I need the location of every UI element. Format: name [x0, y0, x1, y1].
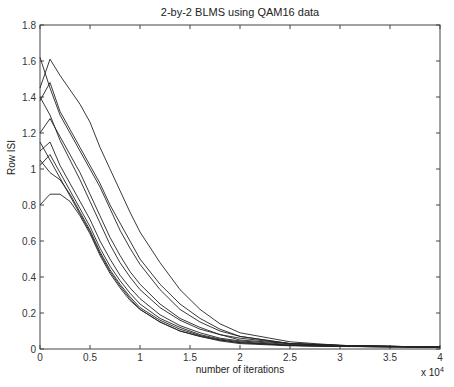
x-tick-label: 4 [437, 352, 443, 363]
y-tick-label: 0.6 [22, 236, 36, 247]
y-tick-label: 1.6 [22, 56, 36, 67]
y-tick-label: 0.8 [22, 200, 36, 211]
x-tick-label: 0 [37, 352, 43, 363]
x-tick-label: 1 [137, 352, 143, 363]
series-line [40, 97, 440, 347]
x-tick-label: 3 [337, 352, 343, 363]
x-tick-label: 1.5 [183, 352, 197, 363]
x-tick-label: 2.5 [283, 352, 297, 363]
y-tick-label: 0 [30, 344, 36, 355]
x-tick-label: 3.5 [383, 352, 397, 363]
x-tick-label: 0.5 [83, 352, 97, 363]
series-line [40, 57, 440, 347]
x-tick-label: 2 [237, 352, 243, 363]
y-tick-label: 1.4 [22, 92, 36, 103]
series-line [40, 194, 440, 347]
series-line [40, 142, 440, 347]
series-line [40, 119, 440, 348]
y-tick-label: 0.2 [22, 308, 36, 319]
y-tick-label: 1 [30, 164, 36, 175]
y-tick-label: 1.8 [22, 20, 36, 31]
y-tick-label: 0.4 [22, 272, 36, 283]
series-line [40, 142, 440, 347]
plot-area: 00.511.522.533.5400.20.40.60.811.21.41.6… [0, 0, 454, 387]
series-line [40, 59, 440, 347]
y-tick-label: 1.2 [22, 128, 36, 139]
